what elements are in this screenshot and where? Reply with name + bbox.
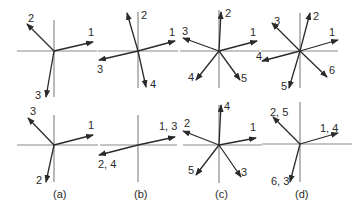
vector-label: 4 bbox=[224, 100, 230, 112]
vector-arrow bbox=[300, 133, 338, 144]
vector-arrow bbox=[300, 51, 327, 77]
vector-label: 3 bbox=[35, 89, 41, 101]
panel-caption: (d) bbox=[295, 188, 308, 200]
vector-arrow bbox=[183, 131, 219, 145]
vector-arrow bbox=[46, 51, 54, 97]
vector-label: 2 bbox=[28, 12, 34, 24]
vector-label: 1 bbox=[88, 26, 94, 38]
vector-arrow bbox=[99, 145, 138, 155]
vector-label: 5 bbox=[241, 72, 247, 84]
vector-arrow bbox=[46, 145, 54, 182]
vector-label: 6 bbox=[329, 64, 335, 76]
vector-label: 2 bbox=[225, 7, 231, 19]
panel-a: 123132(a) bbox=[17, 12, 98, 200]
vector-label: 5 bbox=[281, 80, 287, 92]
panel-caption: (a) bbox=[53, 188, 66, 200]
vector-arrow bbox=[138, 41, 175, 51]
vector-arrow bbox=[219, 145, 241, 177]
phasor-diagram-bottom: 12345 bbox=[183, 100, 262, 183]
vector-label: 4 bbox=[188, 71, 194, 83]
vector-arrow bbox=[273, 117, 300, 144]
panel-caption: (b) bbox=[134, 188, 147, 200]
vector-arrow bbox=[54, 135, 93, 145]
phasor-diagram-bottom: 132 bbox=[17, 105, 98, 186]
vector-label: 3 bbox=[182, 25, 188, 37]
vector-arrow bbox=[300, 13, 310, 51]
vector-label: 2 bbox=[184, 117, 190, 129]
phasor-diagram-top: 12345 bbox=[180, 7, 260, 88]
panel-caption: (c) bbox=[215, 188, 228, 200]
panel-b: 12341, 32, 4(b) bbox=[97, 9, 178, 200]
vector-arrow bbox=[290, 144, 300, 182]
vector-arrow bbox=[300, 40, 338, 51]
vector-label: 4 bbox=[150, 78, 156, 90]
vector-arrow bbox=[127, 13, 138, 51]
vector-diagram: 123132(a)12341, 32, 4(b)1234512345(c)123… bbox=[0, 0, 354, 212]
phasor-diagram-bottom: 1, 42, 56, 3 bbox=[262, 102, 352, 187]
vector-label: 1 bbox=[250, 26, 256, 38]
vector-arrow bbox=[262, 51, 300, 61]
vector-label: 5 bbox=[188, 164, 194, 176]
panel-d: 1234561, 42, 56, 3(d) bbox=[256, 10, 352, 200]
phasor-diagram-bottom: 1, 32, 4 bbox=[98, 115, 177, 182]
phasor-diagram-top: 1234 bbox=[97, 9, 178, 90]
vector-label: 2 bbox=[313, 10, 319, 22]
vector-label: 2, 5 bbox=[270, 106, 288, 118]
vector-label: 6, 3 bbox=[271, 175, 289, 187]
vector-arrow bbox=[196, 145, 219, 175]
vector-arrow bbox=[99, 51, 138, 60]
vector-arrow bbox=[138, 137, 175, 145]
vector-label: 1 bbox=[329, 26, 335, 38]
vector-label: 3 bbox=[274, 15, 280, 27]
vector-arrow bbox=[219, 138, 256, 145]
vector-arrow bbox=[272, 23, 300, 51]
vector-arrow bbox=[54, 42, 93, 51]
vector-arrow bbox=[219, 51, 240, 80]
vector-arrow bbox=[27, 24, 54, 51]
vector-label: 3 bbox=[97, 63, 103, 75]
panel-c: 1234512345(c) bbox=[180, 7, 262, 200]
vector-label: 2 bbox=[36, 174, 42, 186]
vector-arrow bbox=[28, 118, 54, 145]
vector-arrow bbox=[289, 51, 300, 88]
phasor-diagram-top: 123 bbox=[17, 12, 97, 101]
vector-arrow bbox=[196, 51, 219, 80]
vector-label: 3 bbox=[30, 105, 36, 117]
phasor-diagram-top: 123456 bbox=[256, 10, 338, 92]
vector-label: 2 bbox=[141, 9, 147, 21]
vector-label: 1, 3 bbox=[159, 120, 177, 132]
vector-label: 1 bbox=[250, 121, 256, 133]
vector-arrow bbox=[183, 38, 219, 51]
vector-label: 1 bbox=[88, 119, 94, 131]
vector-label: 1 bbox=[169, 26, 175, 38]
vector-label: 4 bbox=[256, 50, 262, 62]
vector-label: 2, 4 bbox=[98, 158, 116, 170]
vector-label: 1, 4 bbox=[320, 122, 338, 134]
panels: 123132(a)12341, 32, 4(b)1234512345(c)123… bbox=[17, 7, 352, 200]
vector-arrow bbox=[138, 51, 146, 87]
vector-arrow bbox=[219, 41, 257, 51]
vector-label: 3 bbox=[241, 166, 247, 178]
